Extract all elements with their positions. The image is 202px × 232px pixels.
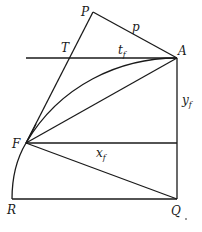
label-F: F [11, 137, 21, 151]
label-P: P [80, 5, 90, 19]
label-Q: Q [171, 204, 181, 218]
line-FP [26, 12, 93, 143]
line-FA [26, 58, 177, 143]
dot-mark [185, 218, 187, 220]
line-PA [93, 12, 177, 58]
label-T: T [61, 41, 70, 55]
label-yf: yf [181, 93, 194, 109]
label-xf: xf [96, 146, 108, 162]
label-A: A [177, 44, 187, 58]
arc-RF [12, 124, 36, 199]
label-tf: tf [118, 43, 128, 59]
geometry-diagram: P A T F R Q p tf yf xf [0, 0, 202, 232]
label-R: R [6, 203, 16, 217]
label-p: p [132, 20, 140, 34]
